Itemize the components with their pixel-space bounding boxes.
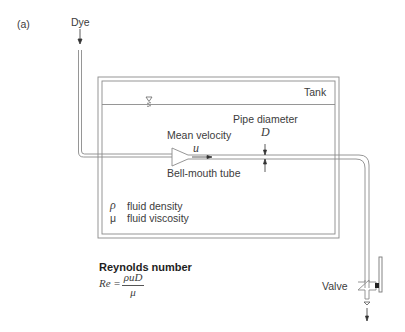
valve-body: [358, 280, 376, 299]
diameter-arrows-icon: [264, 144, 267, 172]
panel-label: (a): [17, 19, 30, 30]
formula-fraction: ρuD μ: [122, 272, 144, 298]
bell-mouth-cone: [172, 148, 188, 166]
outflow-arrow-icon: [364, 302, 370, 321]
diameter-symbol: D: [261, 126, 270, 138]
viscosity-text: fluid viscosity: [127, 213, 189, 224]
bell-mouth-label: Bell-mouth tube: [167, 168, 241, 179]
valve-handle-bar: [379, 257, 382, 292]
dye-pipe-inner: [82, 50, 173, 154]
dye-pipe-outer: [79, 50, 173, 157]
velocity-arrow-icon: [192, 156, 212, 159]
water-level-marker-icon: [146, 97, 152, 107]
formula-numerator: ρuD: [124, 272, 143, 284]
dye-label: Dye: [71, 17, 90, 28]
viscosity-symbol: μ: [110, 213, 116, 224]
density-text: fluid density: [127, 201, 182, 212]
mean-velocity-label: Mean velocity: [167, 130, 231, 141]
velocity-symbol: u: [193, 142, 199, 154]
dye-inflow-arrow-icon: [78, 29, 82, 44]
valve-label: Valve: [322, 281, 348, 292]
tank-label: Tank: [304, 87, 326, 98]
density-symbol: ρ: [110, 199, 116, 211]
formula-title: Reynolds number: [99, 262, 192, 273]
formula-denominator: μ: [130, 287, 136, 299]
formula-lhs: Re =: [99, 278, 121, 289]
pipe-diameter-label: Pipe diameter: [233, 114, 298, 125]
valve-handle-knob: [375, 283, 379, 288]
